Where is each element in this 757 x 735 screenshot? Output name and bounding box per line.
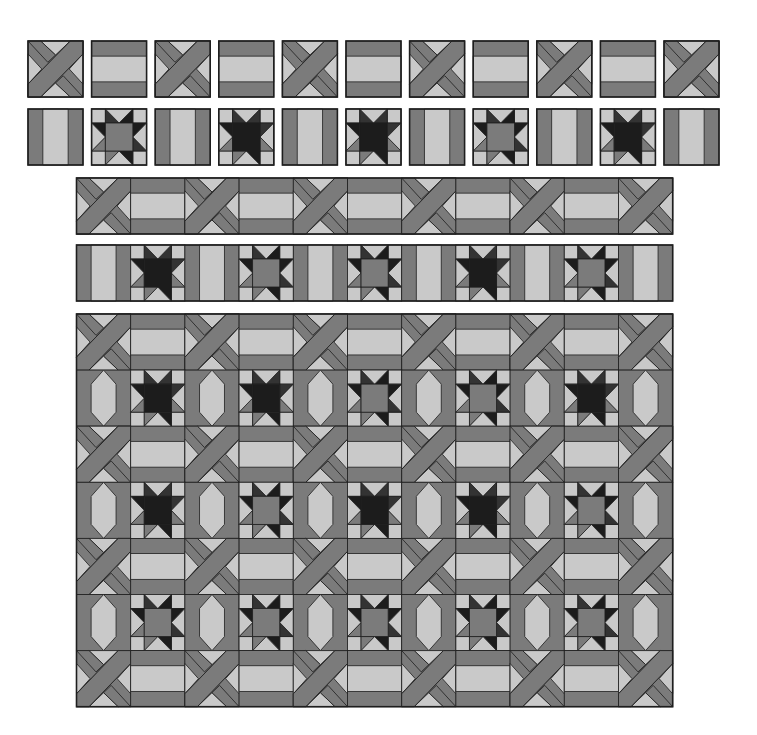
crossed-bands-block (510, 538, 564, 594)
star-block (239, 370, 293, 426)
row2-block-10 (664, 109, 719, 165)
horizontal-bar-block (239, 178, 293, 234)
star-center (144, 384, 171, 412)
star-block (346, 109, 401, 165)
vertical-bar-block (664, 109, 719, 165)
horizontal-bar-block (348, 426, 402, 482)
crossed-bands-block (293, 178, 347, 234)
crossed-bands-block (77, 651, 131, 707)
row2-block-9 (600, 109, 655, 165)
horizontal-bar-block (348, 538, 402, 594)
crossed-bands-block (77, 178, 131, 234)
crossed-bands-block (293, 538, 347, 594)
row2-block-5 (346, 109, 401, 165)
crossed-bands-block (619, 538, 673, 594)
vertical-bar-block (510, 595, 564, 651)
horizontal-bar-block (473, 41, 528, 97)
crossed-bands-block (77, 314, 131, 370)
row2-block-3 (219, 109, 274, 165)
star-block (564, 370, 618, 426)
star-block (92, 109, 147, 165)
star-center (578, 384, 605, 412)
vertical-bar-block (77, 482, 131, 538)
crossed-bands-block (402, 426, 456, 482)
horizontal-bar-block (564, 314, 618, 370)
star-block (239, 482, 293, 538)
star-center (578, 496, 605, 524)
vertical-bar-block (410, 109, 465, 165)
star-block (131, 245, 185, 301)
horizontal-bar-block (564, 178, 618, 234)
star-center (360, 123, 388, 151)
star-block (473, 109, 528, 165)
vertical-bar-block (185, 482, 239, 538)
quilt-diagram (0, 0, 757, 735)
row2-block-2 (155, 109, 210, 165)
row3-sashing-strip (77, 178, 673, 234)
crossed-bands-block (28, 41, 83, 97)
horizontal-bar-block (92, 41, 147, 97)
crossed-bands-block (402, 651, 456, 707)
star-center (233, 123, 260, 151)
horizontal-bar-block (131, 178, 185, 234)
assembled-quilt-top (77, 314, 673, 707)
row2-blocks (28, 109, 719, 165)
star-block (348, 482, 402, 538)
row2-block-1 (92, 109, 147, 165)
crossed-bands-block (282, 41, 337, 97)
star-block (219, 109, 274, 165)
vertical-bar-block (510, 370, 564, 426)
star-center (469, 384, 496, 412)
star-center (253, 259, 280, 287)
horizontal-bar-block (346, 41, 401, 97)
star-center (253, 496, 280, 524)
star-center (469, 609, 496, 637)
star-center (487, 123, 515, 151)
crossed-bands-block (619, 314, 673, 370)
vertical-bar-block (77, 595, 131, 651)
star-block (456, 482, 510, 538)
crossed-bands-block (537, 41, 592, 97)
vertical-bar-block (185, 245, 239, 301)
row1-block-7 (473, 41, 528, 97)
row2-block-4 (282, 109, 337, 165)
vertical-bar-block (619, 595, 673, 651)
vertical-bar-block (510, 245, 564, 301)
vertical-bar-block (293, 595, 347, 651)
star-block (131, 482, 185, 538)
horizontal-bar-block (348, 314, 402, 370)
vertical-bar-block (293, 482, 347, 538)
crossed-bands-block (293, 314, 347, 370)
row2-block-7 (473, 109, 528, 165)
star-block (131, 370, 185, 426)
star-block (564, 245, 618, 301)
crossed-bands-block (619, 178, 673, 234)
star-center (144, 496, 171, 524)
crossed-bands-block (510, 314, 564, 370)
crossed-bands-block (664, 41, 719, 97)
vertical-bar-block (185, 595, 239, 651)
row1-block-5 (346, 41, 401, 97)
star-center (469, 259, 496, 287)
crossed-bands-block (402, 314, 456, 370)
horizontal-bar-block (131, 426, 185, 482)
crossed-bands-block (619, 651, 673, 707)
horizontal-bar-block (456, 314, 510, 370)
row2-block-8 (537, 109, 592, 165)
vertical-bar-block (155, 109, 210, 165)
crossed-bands-block (77, 426, 131, 482)
horizontal-bar-block (131, 651, 185, 707)
row1-block-8 (537, 41, 592, 97)
vertical-bar-block (402, 245, 456, 301)
star-block (600, 109, 655, 165)
star-center (253, 384, 280, 412)
star-center (144, 609, 171, 637)
star-block (348, 245, 402, 301)
crossed-bands-block (510, 426, 564, 482)
row1-block-3 (219, 41, 274, 97)
crossed-bands-block (402, 538, 456, 594)
star-center (361, 609, 388, 637)
vertical-bar-block (537, 109, 592, 165)
star-center (253, 609, 280, 637)
row1-block-1 (92, 41, 147, 97)
